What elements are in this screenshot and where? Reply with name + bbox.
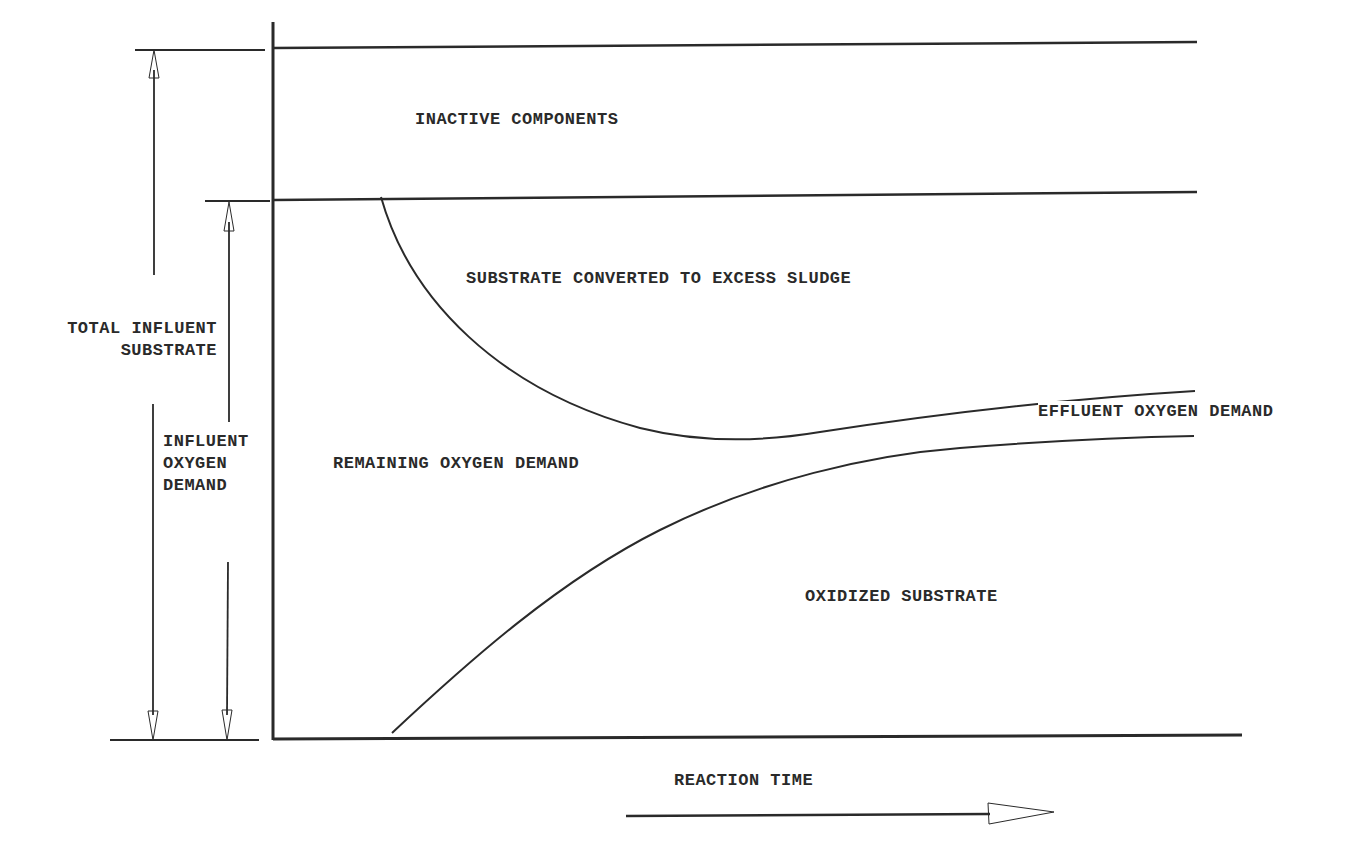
label-ioxd-line2: OXYGEN xyxy=(163,453,249,475)
label-effluent-oxygen-demand: EFFLUENT OXYGEN DEMAND xyxy=(1038,401,1273,423)
label-influent-oxygen-demand: INFLUENT OXYGEN DEMAND xyxy=(163,431,249,497)
x-axis-line xyxy=(273,735,1242,739)
label-total-influent-substrate: TOTAL INFLUENT SUBSTRATE xyxy=(32,318,217,362)
label-oxidized-substrate: OXIDIZED SUBSTRATE xyxy=(805,586,998,608)
label-total-line1: TOTAL INFLUENT xyxy=(32,318,217,340)
label-inactive-components: INACTIVE COMPONENTS xyxy=(415,109,618,131)
arrow-right-icon xyxy=(988,803,1054,824)
oxygen-demand-diagram: INACTIVE COMPONENTS SUBSTRATE CONVERTED … xyxy=(0,0,1347,858)
label-ioxd-line1: INFLUENT xyxy=(163,431,249,453)
arrow-down-icon xyxy=(148,711,158,740)
reaction-time-arrow-shaft xyxy=(626,814,990,816)
total-substrate-top-line xyxy=(273,42,1197,48)
label-remaining-oxygen-demand: REMAINING OXYGEN DEMAND xyxy=(333,453,579,475)
ioxd-dim-line-lower xyxy=(227,562,228,715)
label-ioxd-line3: DEMAND xyxy=(163,475,249,497)
label-total-line2: SUBSTRATE xyxy=(32,340,217,362)
influent-oxygen-demand-line xyxy=(273,192,1197,200)
oxidized-substrate-boundary-curve xyxy=(392,436,1194,733)
label-substrate-converted: SUBSTRATE CONVERTED TO EXCESS SLUDGE xyxy=(466,268,851,290)
label-reaction-time: REACTION TIME xyxy=(674,770,813,792)
diagram-canvas xyxy=(0,0,1347,858)
